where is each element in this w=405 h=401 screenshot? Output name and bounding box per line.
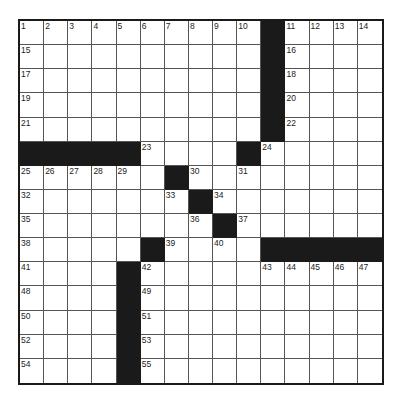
- crossword-cell[interactable]: 2: [44, 21, 68, 45]
- crossword-cell[interactable]: [165, 286, 189, 310]
- crossword-cell[interactable]: [213, 359, 237, 383]
- crossword-cell[interactable]: 25: [20, 166, 44, 190]
- crossword-cell[interactable]: [117, 93, 141, 117]
- crossword-cell[interactable]: 12: [310, 21, 334, 45]
- crossword-cell[interactable]: [334, 142, 358, 166]
- crossword-cell[interactable]: [358, 286, 382, 310]
- crossword-cell[interactable]: 39: [165, 238, 189, 262]
- crossword-cell[interactable]: [44, 238, 68, 262]
- crossword-cell[interactable]: [261, 359, 285, 383]
- crossword-cell[interactable]: [68, 238, 92, 262]
- crossword-cell[interactable]: [44, 190, 68, 214]
- crossword-cell[interactable]: [310, 69, 334, 93]
- crossword-cell[interactable]: 31: [237, 166, 261, 190]
- crossword-cell[interactable]: [141, 214, 165, 238]
- crossword-cell[interactable]: [213, 166, 237, 190]
- crossword-cell[interactable]: [285, 166, 309, 190]
- crossword-cell[interactable]: [189, 238, 213, 262]
- crossword-cell[interactable]: [358, 69, 382, 93]
- crossword-cell[interactable]: [237, 93, 261, 117]
- crossword-cell[interactable]: [44, 262, 68, 286]
- crossword-cell[interactable]: 44: [285, 262, 309, 286]
- crossword-cell[interactable]: [213, 69, 237, 93]
- crossword-cell[interactable]: 52: [20, 335, 44, 359]
- crossword-cell[interactable]: [92, 45, 116, 69]
- crossword-cell[interactable]: [92, 118, 116, 142]
- crossword-cell[interactable]: [189, 118, 213, 142]
- crossword-cell[interactable]: [92, 69, 116, 93]
- crossword-cell[interactable]: [261, 166, 285, 190]
- crossword-cell[interactable]: [189, 262, 213, 286]
- crossword-cell[interactable]: 41: [20, 262, 44, 286]
- crossword-cell[interactable]: [189, 286, 213, 310]
- crossword-cell[interactable]: [261, 214, 285, 238]
- crossword-cell[interactable]: 35: [20, 214, 44, 238]
- crossword-cell[interactable]: 28: [92, 166, 116, 190]
- crossword-cell[interactable]: [334, 335, 358, 359]
- crossword-cell[interactable]: [92, 93, 116, 117]
- crossword-cell[interactable]: [117, 190, 141, 214]
- crossword-cell[interactable]: [165, 118, 189, 142]
- crossword-cell[interactable]: [334, 359, 358, 383]
- crossword-cell[interactable]: [117, 214, 141, 238]
- crossword-cell[interactable]: [165, 69, 189, 93]
- crossword-cell[interactable]: [117, 238, 141, 262]
- crossword-cell[interactable]: [189, 359, 213, 383]
- crossword-cell[interactable]: [165, 311, 189, 335]
- crossword-cell[interactable]: [285, 190, 309, 214]
- crossword-cell[interactable]: 23: [141, 142, 165, 166]
- crossword-cell[interactable]: [334, 93, 358, 117]
- crossword-cell[interactable]: [44, 69, 68, 93]
- crossword-cell[interactable]: [310, 118, 334, 142]
- crossword-cell[interactable]: [334, 214, 358, 238]
- crossword-cell[interactable]: [213, 142, 237, 166]
- crossword-cell[interactable]: [92, 335, 116, 359]
- crossword-cell[interactable]: 15: [20, 45, 44, 69]
- crossword-cell[interactable]: [165, 142, 189, 166]
- crossword-cell[interactable]: 37: [237, 214, 261, 238]
- crossword-cell[interactable]: [189, 311, 213, 335]
- crossword-cell[interactable]: [68, 311, 92, 335]
- crossword-cell[interactable]: 3: [68, 21, 92, 45]
- crossword-cell[interactable]: [310, 190, 334, 214]
- crossword-cell[interactable]: [92, 311, 116, 335]
- crossword-cell[interactable]: [237, 359, 261, 383]
- crossword-cell[interactable]: [165, 45, 189, 69]
- crossword-cell[interactable]: [68, 45, 92, 69]
- crossword-cell[interactable]: [237, 286, 261, 310]
- crossword-cell[interactable]: 1: [20, 21, 44, 45]
- crossword-cell[interactable]: 49: [141, 286, 165, 310]
- crossword-cell[interactable]: [285, 214, 309, 238]
- crossword-cell[interactable]: [310, 359, 334, 383]
- crossword-cell[interactable]: 10: [237, 21, 261, 45]
- crossword-cell[interactable]: [358, 142, 382, 166]
- crossword-cell[interactable]: [358, 118, 382, 142]
- crossword-cell[interactable]: [141, 166, 165, 190]
- crossword-cell[interactable]: [358, 214, 382, 238]
- crossword-cell[interactable]: [261, 335, 285, 359]
- crossword-cell[interactable]: 53: [141, 335, 165, 359]
- crossword-cell[interactable]: [68, 118, 92, 142]
- crossword-cell[interactable]: [213, 45, 237, 69]
- crossword-cell[interactable]: [189, 69, 213, 93]
- crossword-cell[interactable]: [68, 190, 92, 214]
- crossword-cell[interactable]: [334, 118, 358, 142]
- crossword-cell[interactable]: [213, 311, 237, 335]
- crossword-cell[interactable]: [237, 190, 261, 214]
- crossword-cell[interactable]: [44, 286, 68, 310]
- crossword-cell[interactable]: [117, 45, 141, 69]
- crossword-cell[interactable]: [44, 359, 68, 383]
- crossword-cell[interactable]: [237, 69, 261, 93]
- crossword-cell[interactable]: 22: [285, 118, 309, 142]
- crossword-cell[interactable]: [68, 93, 92, 117]
- crossword-cell[interactable]: [68, 335, 92, 359]
- crossword-cell[interactable]: [358, 45, 382, 69]
- crossword-cell[interactable]: [68, 286, 92, 310]
- crossword-cell[interactable]: 27: [68, 166, 92, 190]
- crossword-cell[interactable]: 16: [285, 45, 309, 69]
- crossword-cell[interactable]: 36: [189, 214, 213, 238]
- crossword-cell[interactable]: [285, 335, 309, 359]
- crossword-cell[interactable]: 11: [285, 21, 309, 45]
- crossword-cell[interactable]: [92, 359, 116, 383]
- crossword-cell[interactable]: [285, 359, 309, 383]
